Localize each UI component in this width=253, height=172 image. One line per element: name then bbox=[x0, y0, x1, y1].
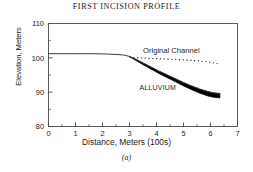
y-tick-label: 90 bbox=[36, 88, 44, 97]
annotation-original-channel: Original Channel bbox=[143, 46, 200, 55]
plot-frame bbox=[49, 24, 238, 127]
figure-container: FIRST INCISION PROFILE Elevation, Meters… bbox=[0, 0, 253, 172]
figure-subcaption: (a) bbox=[0, 153, 253, 162]
y-tick-label: 100 bbox=[32, 54, 44, 63]
annotation-alluvium: ALLUVIUM bbox=[140, 84, 177, 91]
y-tick-label: 110 bbox=[32, 19, 44, 28]
x-axis-label: Distance, Meters (100s) bbox=[0, 137, 253, 147]
y-tick-label: 80 bbox=[36, 122, 44, 131]
